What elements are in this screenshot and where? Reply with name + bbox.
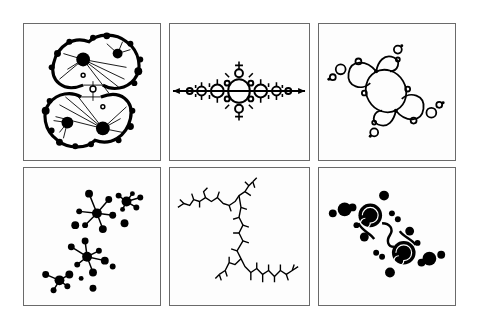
fractal-panel-6: Julia set – spiral filled set with two l… [318,167,456,306]
fractal-panel-5: Julia set – dendrite (branching curve) [169,167,310,306]
bulb-chain-julia-set-figure [170,24,309,160]
fractal-panel-3: Julia set – outlined Douady rabbit-like … [318,23,456,161]
fractal-panel-1: Julia set – dendritic fan/cauliflower-li… [23,23,161,161]
dust-julia-set-figure [24,168,160,305]
rabbit-julia-set-figure [319,24,455,160]
fan-julia-set-figure [24,24,160,160]
fractal-panel-4: Julia set – disconnected Fatou dust clus… [23,167,161,306]
spiral-julia-set-figure [319,168,455,305]
dendrite-julia-set-figure [170,168,309,305]
fractal-panel-2: Julia set – horizontal chain of bulbs (b… [169,23,310,161]
